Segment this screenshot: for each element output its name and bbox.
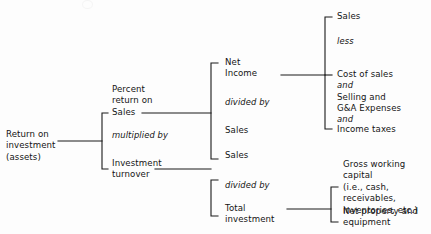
operator-divided-by-top: divided by [225, 97, 270, 108]
bracket-level2 [102, 113, 108, 169]
scan-artifact [82, 0, 93, 9]
node-sales-numerator[interactable]: Sales [225, 150, 285, 161]
bracket-level3-top [211, 63, 218, 159]
node-percent-return-on-sales[interactable]: Percent return on Sales [112, 84, 182, 118]
node-sales-income-statement[interactable]: Sales [337, 11, 429, 22]
node-net-income[interactable]: Net Income [225, 57, 285, 80]
node-net-property-and-equipment[interactable]: Net property and equipment [343, 206, 431, 229]
bracket-level4-bottom [331, 187, 338, 222]
node-total-investment[interactable]: Total investment [225, 203, 295, 226]
operator-multiplied-by: multiplied by [112, 130, 168, 141]
node-selling-and-ga-expenses[interactable]: Selling and G&A Expenses [337, 92, 431, 115]
roi-tree-diagram: Return on investment (assets) Percent re… [0, 0, 431, 234]
node-return-on-investment[interactable]: Return on investment (assets) [6, 129, 66, 163]
node-investment-turnover[interactable]: Investment turnover [112, 158, 182, 181]
node-sales-denominator[interactable]: Sales [225, 125, 285, 136]
node-cost-of-sales[interactable]: Cost of sales [337, 69, 429, 80]
bracket-level4-top [325, 17, 332, 129]
node-income-taxes[interactable]: Income taxes [337, 124, 429, 135]
operator-divided-by-bottom: divided by [225, 180, 270, 191]
bracket-level3-bottom [211, 180, 218, 216]
operator-and-1: and [337, 80, 353, 91]
operator-less: less [337, 36, 354, 47]
